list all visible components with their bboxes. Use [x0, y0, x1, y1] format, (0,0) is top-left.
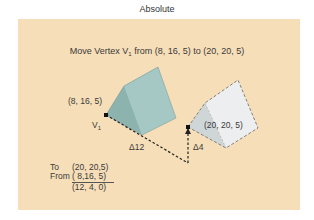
delta-y-label: Δ4 — [193, 142, 203, 152]
delta-x-label: Δ12 — [129, 142, 144, 152]
vertex-subscript: 1 — [98, 125, 101, 131]
from-value: ( 8,16, 5) — [72, 172, 106, 181]
moved-prism — [188, 80, 258, 148]
result-value: (12, 4, 0) — [72, 183, 106, 192]
vertex-label: V1 — [92, 120, 101, 131]
original-prism — [106, 67, 176, 135]
start-coordinate-label: (8, 16, 5) — [68, 96, 102, 106]
diagram-graphics — [0, 0, 314, 220]
vertex-v1-marker — [104, 113, 108, 117]
end-coordinate-label: (20, 20, 5) — [204, 120, 243, 130]
vertex-moved-marker — [186, 125, 190, 129]
vector-subtraction: To(20, 20,5) From( 8,16, 5) (12, 4, 0) — [50, 163, 114, 192]
from-label: From — [50, 172, 72, 181]
